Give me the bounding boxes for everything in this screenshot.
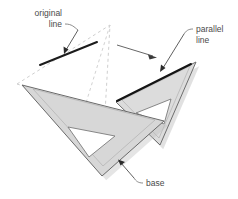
label-base-text: base: [146, 178, 165, 188]
label-original-line-leader-shaft: [66, 30, 78, 50]
label-original-line-leader: [65, 24, 78, 30]
label-base: base: [118, 160, 165, 189]
motion-arrow-shaft: [117, 45, 153, 56]
label-parallel-line-text-2: line: [196, 35, 210, 45]
label-base-leader-shaft: [121, 163, 134, 178]
label-parallel-line-text-1: parallel: [196, 24, 224, 34]
label-parallel-line-leader: [184, 29, 193, 34]
label-original-line-text-2: line: [49, 19, 63, 29]
motion-arrow-head: [148, 55, 157, 60]
label-parallel-line-leader-shaft: [163, 34, 184, 68]
label-original-line-text-1: original: [35, 8, 63, 18]
motion-arrow: [117, 45, 157, 60]
label-base-leader: [134, 178, 143, 183]
label-original-line: original line: [35, 8, 78, 54]
parallel-line-diagram: original line parallel line base: [0, 0, 238, 199]
